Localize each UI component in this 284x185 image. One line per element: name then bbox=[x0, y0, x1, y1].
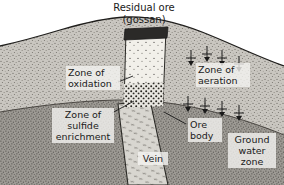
label-zone-of-sulfide-enrichment: Zone of sulfide enrichment bbox=[52, 108, 114, 143]
gossan-outcrop-cap bbox=[124, 27, 168, 40]
label-zone-of-aeration: Zone of aeration bbox=[196, 63, 250, 87]
geology-cross-section-diagram: Residual ore (gossan) Zone of oxidation … bbox=[0, 0, 284, 185]
label-vein: Vein bbox=[138, 152, 168, 165]
figure-title: Residual ore (gossan) bbox=[96, 2, 192, 26]
label-ground-water-zone: Ground water zone bbox=[228, 133, 276, 168]
label-ore-body: Ore body bbox=[188, 118, 222, 142]
label-zone-of-oxidation: Zone of oxidation bbox=[66, 66, 120, 90]
